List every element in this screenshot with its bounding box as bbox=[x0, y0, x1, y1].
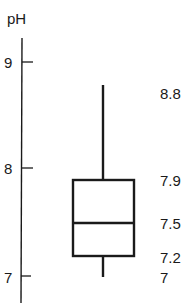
annotation-median: 7.5 bbox=[160, 215, 181, 232]
y-axis-label: pH bbox=[7, 10, 26, 27]
annotation-min: 7 bbox=[160, 269, 168, 286]
annotation-q3: 7.9 bbox=[160, 172, 181, 189]
y-tick-label-9: 9 bbox=[4, 54, 12, 71]
y-axis-line bbox=[21, 38, 22, 303]
box-plot-chart: pH 9 8 7 8.8 7.9 7.5 7.2 7 bbox=[0, 0, 190, 305]
annotation-q1: 7.2 bbox=[160, 249, 181, 266]
annotation-max: 8.8 bbox=[160, 85, 181, 102]
y-tick-label-7: 7 bbox=[4, 269, 12, 286]
y-axis-ticks: 9 8 7 bbox=[4, 54, 33, 286]
y-tick-label-8: 8 bbox=[4, 160, 12, 177]
value-annotations: 8.8 7.9 7.5 7.2 7 bbox=[160, 85, 181, 286]
box-plot bbox=[73, 85, 134, 277]
interquartile-box bbox=[73, 180, 134, 256]
